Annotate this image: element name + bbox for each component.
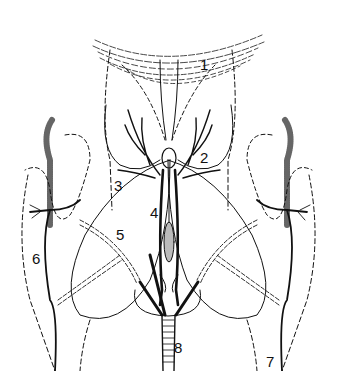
right-vessel	[257, 200, 307, 371]
label-5: 5	[116, 227, 124, 242]
label-1: 1	[200, 57, 208, 72]
left-vessel	[30, 200, 80, 371]
top-hatched-band	[93, 35, 264, 84]
label-2: 2	[200, 150, 208, 165]
right-dashed-loop	[247, 134, 312, 219]
right-large-oval	[168, 160, 266, 318]
label-6: 6	[32, 251, 40, 266]
left-dashed-loop	[25, 134, 90, 219]
hatched-sac	[164, 222, 174, 262]
label-3: 3	[114, 178, 122, 193]
label-7: 7	[266, 354, 274, 369]
diagram-drawing	[0, 0, 337, 371]
central-node	[162, 148, 176, 168]
label-8: 8	[174, 340, 182, 355]
left-lobe-outline	[105, 105, 160, 169]
label-4: 4	[150, 205, 158, 220]
anatomical-diagram: 1 2 3 4 5 6 7 8	[0, 0, 337, 371]
